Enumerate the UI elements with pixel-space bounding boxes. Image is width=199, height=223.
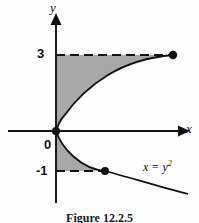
x-axis-label: x (186, 122, 192, 135)
shaded-region-upper (56, 55, 173, 131)
point-1-neg1 (101, 167, 109, 175)
shaded-region-lower (56, 131, 105, 171)
point-origin (52, 127, 60, 135)
figure-container: y x 3 0 -1 x = y2 Figure 12.2.5 (0, 0, 199, 223)
figure-caption: Figure 12.2.5 (0, 212, 199, 223)
curve-equation-base: x = y (143, 160, 168, 174)
plot-canvas (0, 0, 199, 223)
y-axis-label: y (50, 1, 56, 14)
point-9-3 (169, 51, 177, 59)
tick-label-y-neg1: -1 (36, 164, 48, 177)
curve-equation-label: x = y2 (143, 160, 172, 173)
tick-label-origin: 0 (44, 138, 51, 151)
tick-label-y-3: 3 (37, 47, 44, 60)
curve-equation-exponent: 2 (168, 159, 172, 168)
